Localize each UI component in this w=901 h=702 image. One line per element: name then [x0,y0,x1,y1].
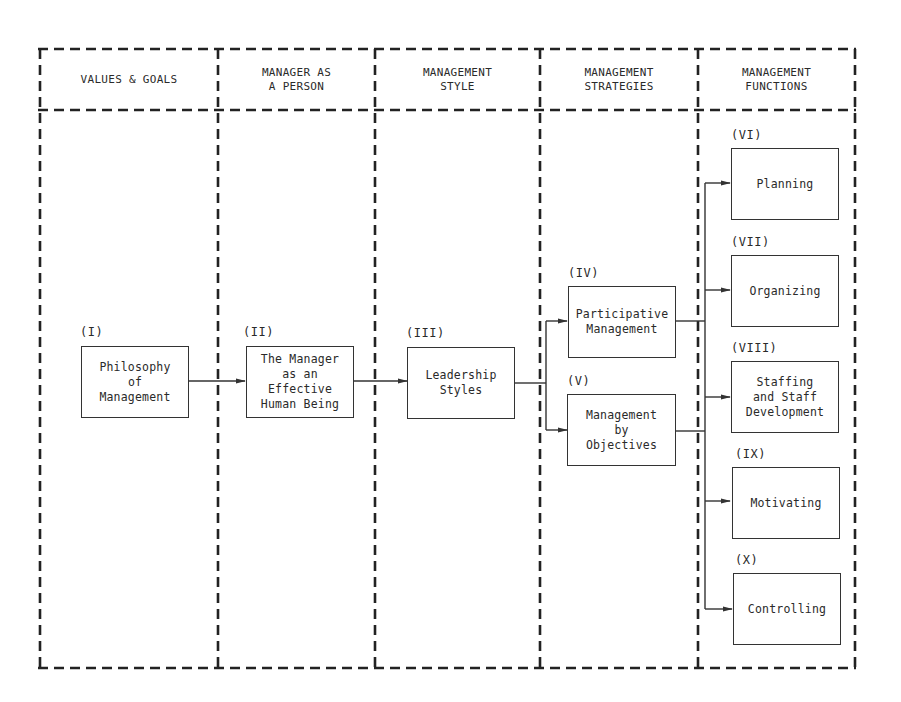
node-manager-effective-human-being: The Manager as an Effective Human Being [246,346,354,418]
node-motivating: Motivating [732,467,840,539]
node-number-v: (V) [567,374,590,388]
node-number-vi: (VI) [731,128,762,142]
header-manager-as-person: MANAGER AS A PERSON [220,52,373,108]
header-values-goals: VALUES & GOALS [42,52,216,108]
node-management-by-objectives: Management by Objectives [567,394,676,466]
node-planning: Planning [731,148,839,220]
node-label: Participative Management [576,307,669,337]
node-staffing-staff-development: Staffing and Staff Development [731,361,839,433]
header-management-style: MANAGEMENT STYLE [377,52,538,108]
header-management-functions: MANAGEMENT FUNCTIONS [700,52,853,108]
node-label: Leadership Styles [425,368,496,398]
header-management-strategies: MANAGEMENT STRATEGIES [542,52,696,108]
node-leadership-styles: Leadership Styles [407,347,515,419]
node-number-viii: (VIII) [731,341,777,355]
node-label: The Manager as an Effective Human Being [261,352,339,412]
node-label: Organizing [749,284,820,299]
node-number-x: (X) [735,553,758,567]
node-philosophy-of-management: Philosophy of Management [81,346,189,418]
node-label: Management by Objectives [586,408,657,453]
node-number-iii: (III) [406,326,445,340]
node-controlling: Controlling [733,573,841,645]
node-number-ii: (II) [243,325,274,339]
node-label: Staffing and Staff Development [746,375,824,420]
node-number-vii: (VII) [731,235,770,249]
node-label: Motivating [750,496,821,511]
node-number-ix: (IX) [735,447,766,461]
node-number-i: (I) [80,325,103,339]
node-label: Planning [757,177,814,192]
node-number-iv: (IV) [568,266,599,280]
node-label: Controlling [748,602,826,617]
node-label: Philosophy of Management [99,360,170,405]
node-organizing: Organizing [731,255,839,327]
node-participative-management: Participative Management [568,286,676,358]
